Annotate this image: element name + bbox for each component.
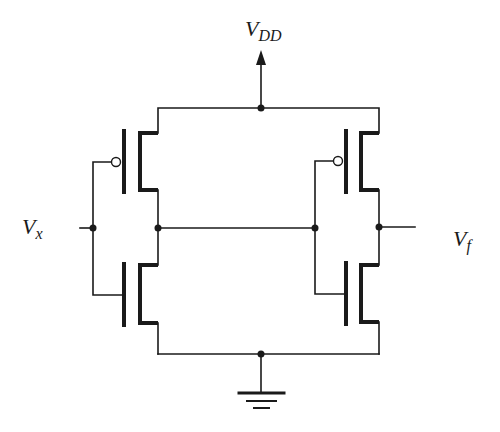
pmos-p1 [93, 131, 158, 228]
input-label-main: V [22, 214, 35, 239]
vdd-label-main: V [245, 16, 258, 41]
schematic [0, 0, 500, 432]
vdd-label: VDD [245, 18, 282, 44]
nmos-n1 [93, 228, 158, 325]
output-label-sub: f [466, 237, 470, 254]
nmos-n2 [315, 228, 379, 324]
input-label: Vx [22, 216, 43, 242]
vdd-node [258, 105, 265, 112]
input-node [90, 225, 97, 232]
ground-icon [239, 393, 284, 408]
vdd-arrow [256, 50, 266, 108]
output-label-main: V [453, 226, 466, 251]
output-label: Vf [453, 228, 471, 254]
pmos-p2 [315, 131, 379, 228]
intermediate-node-left [155, 225, 162, 232]
vdd-label-sub: DD [258, 27, 281, 44]
output-node [376, 224, 383, 231]
circuit-diagram: VDD Vx Vf [0, 0, 500, 432]
input-label-sub: x [35, 225, 42, 242]
